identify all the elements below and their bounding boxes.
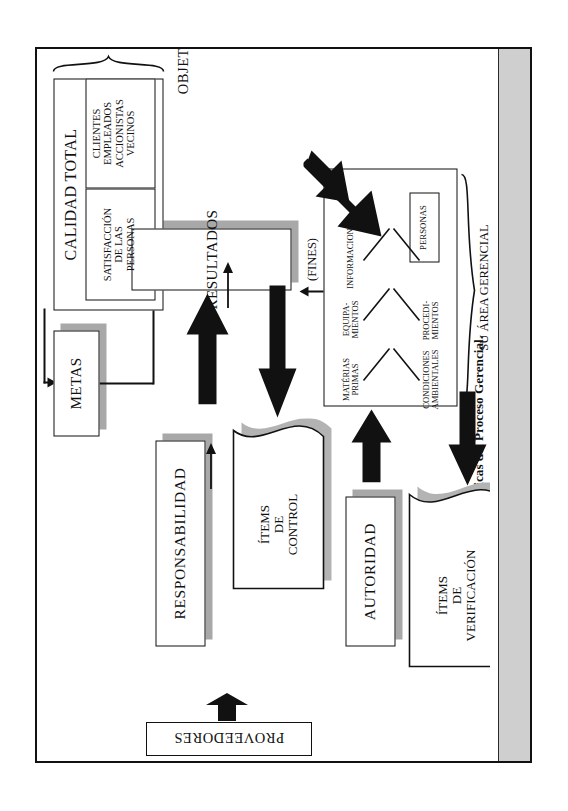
- area-to-resultados-arrow: [205, 443, 217, 489]
- autoridad-fat-arrow: [351, 409, 393, 483]
- diagram-rotation-wrapper: CALIDAD TOTAL SATISFACCIÓN DE LAS PERSON…: [35, 47, 490, 763]
- proveedores-label: PROVEEDORES: [146, 729, 312, 746]
- responsabilidad-fat-arrow: [186, 293, 230, 405]
- objetivo-label: OBJETIVO: [176, 47, 192, 103]
- personas-label: PERSONAS: [419, 193, 429, 263]
- proveedores-fat-arrow: [205, 692, 249, 722]
- control-to-personas-fat-arrow: [304, 147, 414, 243]
- area-gerencial-label: SU ÁREA GERENCIAL (MEDIOS): [478, 168, 491, 408]
- resultados-to-calidad-arrow: [222, 262, 234, 308]
- satisfaccion-label: SATISFACCIÓN DE LAS PERSONAS: [102, 189, 136, 301]
- area-gerencial-brace: [460, 167, 478, 409]
- metas-label: METAS: [68, 331, 84, 437]
- stakeholders-label: CLIENTES EMPLEADOS ACCIONISTAS VECINOS: [91, 79, 136, 189]
- objetivo-brace: [52, 53, 166, 75]
- calidad-to-metas-horizontal: [44, 309, 46, 384]
- autoridad-label: AUTORIDAD: [362, 497, 379, 647]
- fishbone-right-2: PROCEDI- MIENTOS: [422, 283, 441, 359]
- metas-to-resultados-horizontal: [153, 299, 155, 385]
- diagram-canvas: CALIDAD TOTAL SATISFACCIÓN DE LAS PERSON…: [36, 47, 491, 763]
- items-control-label: ÍTEMS DE CONTROL: [258, 455, 300, 595]
- items-control-fat-arrow: [258, 285, 298, 419]
- calidad-total-label: CALIDAD TOTAL: [62, 79, 79, 311]
- proveedores-group: PROVEEDORES: [146, 722, 312, 756]
- items-verificacion-label: ÍTEMS DE VERIFICACIÓN: [436, 521, 478, 671]
- items-verificacion-fat-arrow: [448, 391, 488, 487]
- metas-to-resultados-vertical: [100, 383, 154, 385]
- responsabilidad-label: RESPONSABILIDAD: [172, 441, 189, 647]
